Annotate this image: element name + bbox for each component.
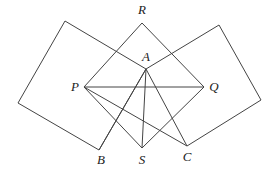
segment-RQ <box>142 23 204 87</box>
segment-QS <box>142 87 204 148</box>
segment-PR <box>84 23 142 87</box>
label-s: S <box>139 152 146 167</box>
segment-AS <box>142 69 146 148</box>
label-r: R <box>137 2 146 17</box>
label-b: B <box>97 152 105 167</box>
label-q: Q <box>209 79 219 94</box>
label-c: C <box>183 149 192 164</box>
segment-SP <box>84 87 142 148</box>
label-a: A <box>141 49 150 64</box>
right-square <box>146 25 261 146</box>
geometry-diagram: RAPQSBC <box>0 0 275 174</box>
label-p: P <box>70 79 79 94</box>
